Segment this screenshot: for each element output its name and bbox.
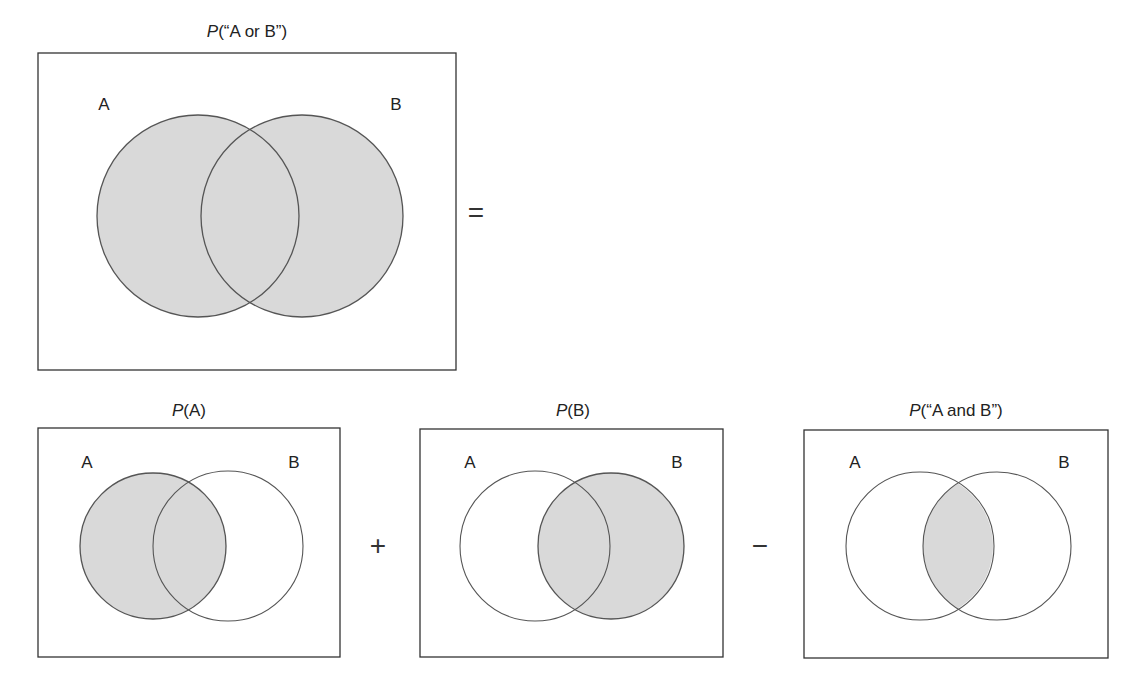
equals-sign: = xyxy=(468,197,484,228)
label-b: B xyxy=(1058,453,1069,472)
label-b: B xyxy=(671,453,682,472)
panel-p-b: P(B) A B xyxy=(420,401,723,657)
label-a: A xyxy=(464,453,476,472)
label-a: A xyxy=(98,95,110,114)
panel-title-p-a: P(A) xyxy=(172,401,206,420)
panel-title-a-or-b: P(“A or B”) xyxy=(207,22,287,41)
label-a: A xyxy=(849,453,861,472)
panel-title-p-b: P(B) xyxy=(556,401,590,420)
plus-sign: + xyxy=(370,530,386,561)
label-b: B xyxy=(390,95,401,114)
label-b: B xyxy=(288,453,299,472)
panel-title-p-a-and-b: P(“A and B”) xyxy=(909,401,1003,420)
label-a: A xyxy=(81,453,93,472)
panel-p-a: P(A) A B xyxy=(38,401,340,657)
panel-a-or-b: P(“A or B”) A B xyxy=(38,22,456,370)
panel-p-a-and-b: P(“A and B”) A B xyxy=(804,401,1108,658)
venn-diagram-canvas: P(“A or B”) A B = P(A) A B + P(B) A B − … xyxy=(0,0,1133,681)
intersection-region xyxy=(923,472,1071,620)
minus-sign: − xyxy=(752,530,768,561)
